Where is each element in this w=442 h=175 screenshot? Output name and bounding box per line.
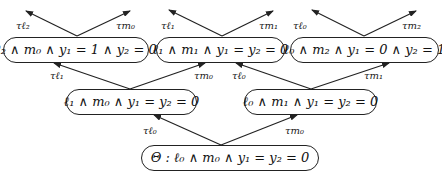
label-mid-right-l: τℓ₀ [232,70,246,81]
label-top-middle-m: τm₁ [259,20,278,31]
arrow-mid-right-l [236,63,311,89]
label-mid-left-m: τm₀ [194,70,213,81]
node-top-middle: ℓ₁ ∧ m₁ ∧ y₁ = y₂ = 0 [156,37,285,63]
label-root-m: τm₀ [285,125,304,136]
arrow-root-l [154,115,221,145]
node-root: Θ : ℓ₀ ∧ m₀ ∧ y₁ = y₂ = 0 [141,145,319,171]
arrow-top-right-l [312,10,364,36]
label-top-middle-l: τℓ₁ [161,20,175,31]
label-top-left-l: τℓ₂ [16,20,30,31]
label-mid-right-m: τm₁ [364,70,383,81]
node-top-left: ℓ₂ ∧ m₀ ∧ y₁ = 1 ∧ y₂ = 0 [3,37,149,63]
label-mid-left-l: τℓ₁ [50,70,64,81]
arrow-top-left-l [26,11,77,36]
label-top-left-m: τm₀ [116,20,135,31]
node-mid-left: ℓ₁ ∧ m₀ ∧ y₁ = y₂ = 0 [66,89,197,115]
arrow-top-middle-l [169,10,222,36]
arrow-mid-left-l [54,63,130,89]
node-top-right: ℓ₀ ∧ m₂ ∧ y₁ = 0 ∧ y₂ = 1 [290,37,439,63]
label-top-right-m: τm₂ [402,20,421,31]
label-root-l: τℓ₀ [143,125,157,136]
node-mid-right: ℓ₀ ∧ m₁ ∧ y₁ = y₂ = 0 [244,89,377,115]
transition-diagram: ℓ₂ ∧ m₀ ∧ y₁ = 1 ∧ y₂ = 0 ℓ₁ ∧ m₁ ∧ y₁ =… [0,0,442,175]
label-top-right-l: τℓ₀ [293,20,307,31]
